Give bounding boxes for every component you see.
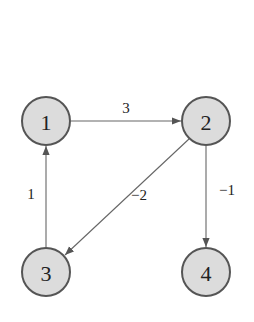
node-3: 3 bbox=[22, 248, 70, 296]
edge-3-to-1: 1 bbox=[27, 146, 46, 247]
edge-weight-label: 1 bbox=[27, 186, 35, 202]
edge-weight-label: −1 bbox=[219, 182, 235, 198]
node-label: 2 bbox=[201, 110, 212, 135]
edge-1-to-2: 3 bbox=[71, 100, 181, 121]
node-label: 3 bbox=[41, 261, 52, 286]
node-2: 2 bbox=[182, 97, 230, 145]
node-label: 4 bbox=[201, 261, 212, 286]
node-4: 4 bbox=[182, 248, 230, 296]
edge-line bbox=[65, 139, 189, 255]
graph-diagram: 3 1 −2 −1 1 2 3 4 bbox=[0, 0, 254, 322]
edge-2-to-3: −2 bbox=[65, 139, 189, 255]
edge-2-to-4: −1 bbox=[206, 146, 235, 247]
edge-weight-label: −2 bbox=[131, 187, 147, 203]
node-1: 1 bbox=[22, 97, 70, 145]
node-label: 1 bbox=[41, 110, 52, 135]
edge-weight-label: 3 bbox=[122, 100, 130, 116]
